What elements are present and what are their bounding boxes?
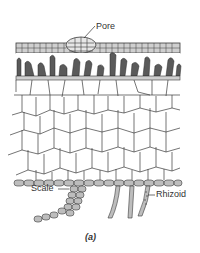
rhizoids	[108, 186, 150, 218]
rhizoid-label: Rhizoid	[156, 190, 186, 199]
photosynthetic-layer	[16, 53, 181, 80]
figure-caption: (a)	[85, 233, 96, 242]
scale-label: Scale	[31, 184, 54, 193]
upper-epidermis	[16, 43, 180, 53]
thallus-cross-section-diagram	[0, 0, 200, 253]
parenchyma-tissue	[8, 80, 180, 180]
pore-label: Pore	[96, 22, 115, 31]
